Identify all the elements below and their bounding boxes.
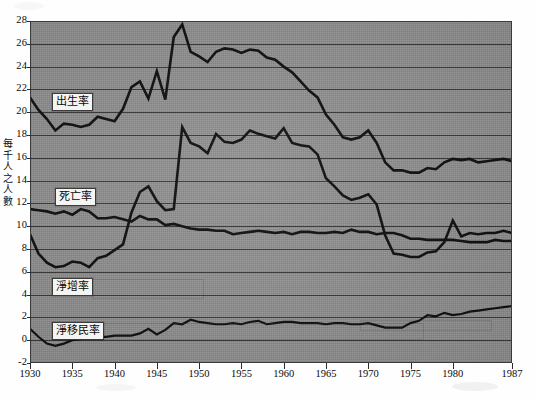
y-axis-tickmark [27, 226, 31, 227]
series-label-net-migration-rate: 淨移民率 [52, 322, 104, 340]
series-lines [30, 21, 512, 363]
y-axis-tick-label: -2 [1, 356, 27, 367]
x-axis-tick-label: 1965 [315, 368, 336, 379]
y-axis-tick-label: 20 [1, 105, 27, 116]
y-axis-tick-label: 22 [1, 82, 27, 93]
y-axis-tickmark [27, 317, 31, 318]
chart-container: -20246810121416182022242628 每千人之人數 19301… [0, 0, 536, 400]
x-axis-tickmark [284, 363, 285, 369]
y-axis-tickmark [27, 249, 31, 250]
y-axis-title: 每千人之人數 [1, 138, 15, 208]
scan-smudge [96, 384, 136, 391]
x-axis-tickmark [241, 363, 242, 369]
y-axis-tick-label: 6 [1, 265, 27, 276]
y-axis-tickmark [27, 44, 31, 45]
x-axis-tick-label: 1945 [146, 368, 167, 379]
y-axis-title-char: 每 [1, 138, 15, 150]
y-axis-title-char: 千 [1, 150, 15, 162]
x-axis-tickmark [512, 363, 513, 369]
x-axis-tickmark [199, 363, 200, 369]
x-axis-tickmark [157, 363, 158, 369]
y-axis-tick-label: 0 [1, 333, 27, 344]
y-axis-tickmark [27, 203, 31, 204]
x-axis-tick-label: 1970 [358, 368, 379, 379]
y-axis-tick-label: 26 [1, 37, 27, 48]
plot-area [30, 21, 512, 363]
y-axis-title-char: 數 [1, 196, 15, 208]
y-axis-tickmark [27, 158, 31, 159]
x-axis-tickmark [368, 363, 369, 369]
x-axis-tickmark [453, 363, 454, 369]
x-axis-tick-label: 1975 [400, 368, 421, 379]
series-line-net-increase-rate [30, 127, 512, 267]
y-axis-tickmark [27, 295, 31, 296]
x-axis-tickmark [326, 363, 327, 369]
x-axis-tick-label: 1940 [104, 368, 125, 379]
x-axis-tick-label: 1960 [273, 368, 294, 379]
x-axis-tick-label: 1987 [502, 368, 523, 379]
y-axis-tickmark [27, 272, 31, 273]
y-axis-tick-label: 28 [1, 14, 27, 25]
y-axis-tickmark [27, 89, 31, 90]
y-axis-tick-label: 10 [1, 219, 27, 230]
y-axis-title-char: 人 [1, 184, 15, 196]
y-axis-tick-label: 4 [1, 288, 27, 299]
y-axis-tick-label: 8 [1, 242, 27, 253]
x-axis-tick-label: 1930 [20, 368, 41, 379]
series-line-death-rate [30, 209, 512, 242]
y-axis-tickmark [27, 67, 31, 68]
series-label-death-rate: 死亡率 [55, 188, 96, 206]
x-axis-tickmark [115, 363, 116, 369]
y-axis-tickmark [27, 21, 31, 22]
y-axis-tickmark [27, 112, 31, 113]
x-axis-tick-label: 1980 [442, 368, 463, 379]
x-axis-tick-label: 1955 [231, 368, 252, 379]
series-label-net-increase-rate: 淨增率 [52, 278, 93, 296]
series-line-birth-rate [30, 24, 512, 172]
y-axis-tickmark [27, 135, 31, 136]
x-axis-tick-label: 1935 [62, 368, 83, 379]
y-axis-tick-label: 24 [1, 60, 27, 71]
y-axis-title-char: 人 [1, 161, 15, 173]
x-axis-tickmark [72, 363, 73, 369]
series-label-birth-rate: 出生率 [52, 93, 93, 111]
x-axis-tick-label: 1950 [189, 368, 210, 379]
x-axis-tickmark [411, 363, 412, 369]
y-axis-tickmark [27, 181, 31, 182]
y-axis-title-char: 之 [1, 173, 15, 185]
y-axis-tick-label: 2 [1, 310, 27, 321]
scan-smudge [452, 382, 498, 391]
x-axis-tickmark [30, 363, 31, 369]
y-axis-tickmark [27, 340, 31, 341]
